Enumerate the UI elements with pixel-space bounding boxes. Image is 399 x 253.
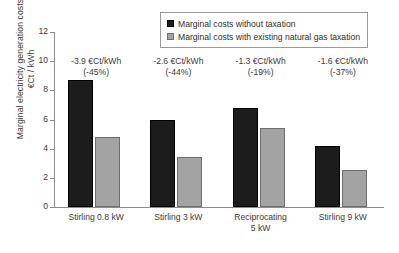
x-axis-label-line: Stirling 0.8 kW [51,212,141,223]
x-axis-label: Stirling 3 kW [133,212,223,223]
annotation-percent: (-37%) [298,67,388,78]
legend-item-without-taxation: Marginal costs without taxation [167,17,360,30]
y-axis-title-line-2: €Ct / kWh [26,0,37,157]
y-axis-tick-label: 2 [30,172,48,182]
x-axis-label-line: Stirling 9 kW [298,212,388,223]
bar-with-taxation [95,137,120,207]
annotation-delta: -3.9 €Ct/kWh [51,56,141,67]
annotation-percent: (-19%) [216,67,306,78]
group-annotation: -1.6 €Ct/kWh(-37%) [298,56,388,78]
bar-without-taxation [233,108,258,207]
annotation-delta: -1.6 €Ct/kWh [298,56,388,67]
annotation-percent: (-44%) [133,67,223,78]
y-axis-tick-label: 0 [30,201,48,211]
legend-label-without-taxation: Marginal costs without taxation [178,19,296,29]
legend-swatch-icon-light [167,33,174,40]
y-axis-tick-label: 10 [30,55,48,65]
legend-label-with-taxation: Marginal costs with existing natural gas… [178,32,360,42]
y-axis-title-line-1: Marginal electricity generation costs [15,0,26,157]
group-annotation: -3.9 €Ct/kWh(-45%) [51,56,141,78]
bar-with-taxation [342,170,367,207]
bar-without-taxation [315,146,340,207]
y-axis-tick-label: 12 [30,26,48,36]
annotation-percent: (-45%) [51,67,141,78]
group-annotation: -1.3 €Ct/kWh(-19%) [216,56,306,78]
y-axis-tick [50,207,55,208]
y-axis-title: Marginal electricity generation costs €C… [15,0,37,157]
chart-legend: Marginal costs without taxation Marginal… [160,12,368,48]
y-axis-tick-label: 8 [30,84,48,94]
y-axis-tick-label: 4 [30,143,48,153]
bar-with-taxation [177,157,202,207]
x-axis-label: Stirling 0.8 kW [51,212,141,223]
legend-swatch-icon-dark [167,20,174,27]
legend-item-with-taxation: Marginal costs with existing natural gas… [167,30,360,43]
x-axis-label-line: Reciprocating [216,212,306,223]
bar-with-taxation [260,128,285,207]
annotation-delta: -2.6 €Ct/kWh [133,56,223,67]
x-axis-label: Stirling 9 kW [298,212,388,223]
y-axis-tick-label: 6 [30,114,48,124]
x-axis-line [54,207,384,208]
group-annotation: -2.6 €Ct/kWh(-44%) [133,56,223,78]
bar-without-taxation [150,120,175,208]
x-axis-label-line: Stirling 3 kW [133,212,223,223]
x-axis-label-line: 5 kW [216,223,306,234]
x-axis-label: Reciprocating5 kW [216,212,306,234]
annotation-delta: -1.3 €Ct/kWh [216,56,306,67]
bar-without-taxation [68,80,93,207]
bar-chart: Marginal electricity generation costs €C… [0,0,399,253]
